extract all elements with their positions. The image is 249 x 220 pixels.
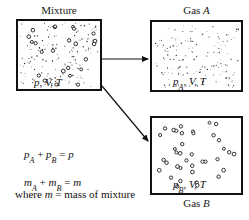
state-label-gas-a: pA, V, T xyxy=(173,75,206,92)
caption-gas-b-text: Gas xyxy=(183,197,203,209)
eq-pressure-lhs1: p xyxy=(24,148,30,160)
equation-note: where m = mass of mixture xyxy=(15,188,135,201)
caption-gas-b-italic: B xyxy=(203,197,210,209)
eq-pressure-op1: + xyxy=(34,148,46,160)
eq-pressure-op2: = xyxy=(57,148,69,160)
state-rest-gas-b: , V, T xyxy=(183,178,205,190)
caption-gas-a: Gas A xyxy=(150,4,243,16)
eq-mass-lhs1: m xyxy=(24,176,32,188)
state-label-gas-b: pB, V, T xyxy=(173,178,206,195)
caption-mixture: Mixture xyxy=(16,4,102,16)
eq-note-suffix: = mass of mixture xyxy=(53,188,136,200)
caption-gas-b: Gas B xyxy=(150,197,243,209)
state-symbol-gas-b: p xyxy=(173,178,179,190)
eq-pressure-lhs2: p xyxy=(46,148,52,160)
eq-pressure-sub1: A xyxy=(30,156,35,165)
eq-pressure-rhs: p xyxy=(68,148,74,160)
eq-pressure-sub2: B xyxy=(52,156,57,165)
state-subscript-gas-a: A xyxy=(179,83,184,92)
eq-mass-op1: + xyxy=(37,176,49,188)
eq-mass-op2: = xyxy=(61,176,73,188)
eq-mass-lhs2: m xyxy=(49,176,57,188)
equation-partial-pressures: pA + pB = p xyxy=(24,148,74,165)
arrow-mixture-to-gas-b xyxy=(102,86,148,141)
eq-mass-rhs: m xyxy=(73,176,81,188)
state-subscript-gas-b: B xyxy=(179,186,184,195)
state-symbol-gas-a: p xyxy=(173,75,179,87)
eq-note-prefix: where xyxy=(15,188,45,200)
caption-gas-a-text: Gas xyxy=(183,4,203,16)
caption-gas-a-italic: A xyxy=(203,4,210,16)
state-rest-mixture: , V, T xyxy=(40,76,62,88)
caption-mixture-text: Mixture xyxy=(41,4,76,16)
diagram-canvas: Mixture p, V, T Gas A pA, V, T pB, V, T … xyxy=(0,0,249,220)
state-rest-gas-a: , V, T xyxy=(183,75,205,87)
state-label-mixture: p, V, T xyxy=(34,76,62,93)
eq-note-symbol: m xyxy=(45,188,53,200)
